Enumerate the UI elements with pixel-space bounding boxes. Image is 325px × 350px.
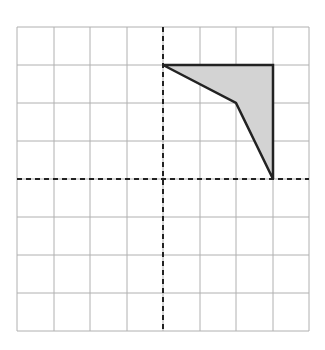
coordinate-grid-diagram: [0, 0, 325, 350]
shaded-polygon: [163, 65, 273, 179]
